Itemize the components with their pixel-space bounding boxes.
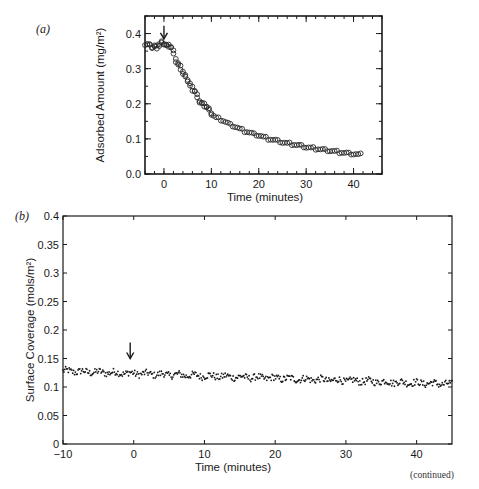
data-point — [118, 375, 120, 377]
data-point — [273, 379, 275, 381]
y-tick-label: 0.1 — [44, 381, 59, 393]
data-point — [168, 371, 170, 373]
data-point — [265, 375, 267, 377]
data-point — [372, 379, 374, 381]
data-point — [99, 368, 101, 370]
data-point — [80, 373, 82, 375]
data-point — [153, 371, 155, 373]
data-point — [353, 377, 355, 379]
data-point — [141, 374, 143, 376]
data-point — [376, 382, 378, 384]
data-point — [285, 379, 287, 381]
y-tick-label: 0.15 — [38, 353, 59, 365]
data-point — [180, 376, 182, 378]
data-point — [246, 376, 248, 378]
y-tick-label: 0.2 — [44, 324, 59, 336]
data-point — [219, 378, 221, 380]
data-point — [393, 380, 395, 382]
data-point — [199, 378, 201, 380]
data-point — [201, 379, 203, 381]
data-point — [349, 376, 351, 378]
data-point — [327, 380, 329, 382]
data-point — [88, 372, 90, 374]
data-point — [250, 381, 252, 383]
data-point — [389, 383, 391, 385]
data-point — [160, 370, 162, 372]
data-point — [128, 375, 130, 377]
data-point — [363, 381, 365, 383]
data-point — [325, 376, 327, 378]
data-point — [108, 371, 110, 373]
x-tick-label: 20 — [269, 448, 281, 460]
data-point — [414, 384, 416, 386]
data-point — [380, 384, 382, 386]
data-point — [370, 378, 372, 380]
data-point — [67, 372, 69, 374]
data-point — [221, 372, 223, 374]
data-point — [249, 379, 251, 381]
data-point — [137, 371, 139, 373]
data-point — [121, 374, 123, 376]
data-point — [448, 382, 450, 384]
data-point — [237, 377, 239, 379]
data-point — [272, 374, 274, 376]
data-point — [254, 379, 256, 381]
data-point — [352, 381, 354, 383]
data-point — [106, 376, 108, 378]
data-point — [222, 373, 224, 375]
data-point — [220, 375, 222, 377]
data-point — [257, 378, 259, 380]
data-point — [86, 368, 88, 370]
data-point — [168, 374, 170, 376]
data-point — [355, 378, 357, 380]
data-point — [322, 376, 324, 378]
data-point — [121, 375, 123, 377]
y-tick-label: 0.25 — [38, 296, 59, 308]
data-point — [144, 374, 146, 376]
data-point — [147, 374, 149, 376]
data-point — [160, 374, 162, 376]
data-point — [278, 378, 280, 380]
data-point — [390, 380, 392, 382]
data-point — [367, 379, 369, 381]
data-point — [124, 373, 126, 375]
data-point — [212, 375, 214, 377]
data-point — [224, 372, 226, 374]
data-point — [244, 377, 246, 379]
data-point — [344, 379, 346, 381]
data-point — [253, 373, 255, 375]
data-point — [317, 377, 319, 379]
data-point — [169, 372, 171, 374]
data-point — [82, 368, 84, 370]
data-point — [227, 373, 229, 375]
data-point — [95, 371, 97, 373]
data-point — [162, 373, 164, 375]
data-point — [300, 379, 302, 381]
data-point — [270, 379, 272, 381]
data-point — [313, 379, 315, 381]
y-tick-label: 0.05 — [38, 410, 59, 422]
data-point — [375, 379, 377, 381]
data-point — [215, 374, 217, 376]
data-point — [359, 380, 361, 382]
x-tick-label: 0 — [131, 448, 137, 460]
data-point — [315, 382, 317, 384]
chart-b-surface-coverage: −1001020304000.050.10.150.20.250.30.350.… — [0, 0, 479, 489]
data-point — [366, 380, 368, 382]
data-point — [324, 381, 326, 383]
data-point — [410, 383, 412, 385]
data-point — [371, 382, 373, 384]
data-point — [134, 370, 136, 372]
data-point — [301, 377, 303, 379]
data-point — [432, 385, 434, 387]
data-point — [334, 377, 336, 379]
data-point — [96, 369, 98, 371]
data-point — [425, 386, 427, 388]
data-point — [181, 373, 183, 375]
data-point — [439, 384, 441, 386]
data-point — [122, 371, 124, 373]
data-point — [171, 378, 173, 380]
data-point — [143, 371, 145, 373]
data-point — [403, 381, 405, 383]
data-point — [422, 384, 424, 386]
